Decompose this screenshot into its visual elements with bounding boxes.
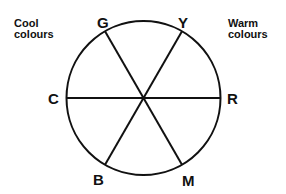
node-label-y: Y [178, 14, 188, 31]
node-label-c: C [48, 90, 59, 107]
warm-colours-label: Warm colours [228, 18, 268, 40]
node-label-b: B [93, 171, 104, 188]
node-label-r: R [227, 90, 238, 107]
cool-colours-label: Cool colours [14, 18, 54, 40]
node-label-m: M [182, 172, 195, 189]
node-label-g: G [97, 14, 109, 31]
cool-label-line-2: colours [14, 29, 54, 40]
center-point [142, 96, 146, 100]
warm-label-line-2: colours [228, 29, 268, 40]
